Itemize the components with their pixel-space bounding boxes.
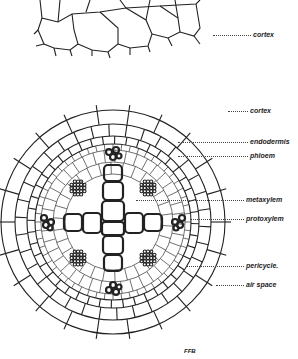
label-phloem: phloem bbox=[250, 152, 275, 160]
cortex-strip-top bbox=[34, 0, 200, 58]
label-endodermis: endodermis bbox=[250, 138, 290, 146]
label-air-space: air space bbox=[246, 281, 276, 289]
label-metaxylem: metaxylem bbox=[246, 196, 282, 204]
leader-endodermis bbox=[178, 142, 248, 143]
label-pericycle: pericycle. bbox=[246, 262, 278, 270]
label-protoxylem: protoxylem bbox=[246, 215, 284, 223]
artist-signature: FFB bbox=[184, 347, 196, 355]
label-cortex: cortex bbox=[250, 107, 271, 115]
leader-cortex bbox=[228, 111, 248, 112]
leader-air-space bbox=[216, 285, 244, 286]
leader-pericycle bbox=[186, 266, 244, 267]
leader-protoxylem bbox=[190, 219, 244, 220]
root-cross-section-drawing bbox=[0, 0, 298, 359]
leader-phloem bbox=[178, 156, 248, 157]
leader-metaxylem bbox=[136, 200, 244, 201]
label-cortex-top: cortex bbox=[253, 31, 274, 39]
leader-cortex-top bbox=[213, 35, 251, 36]
